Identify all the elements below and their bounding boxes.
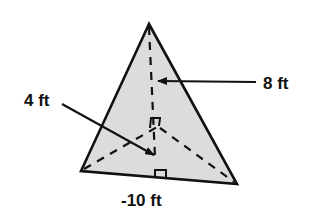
pyramid-face <box>81 24 237 184</box>
slant-height-arrow <box>158 81 256 82</box>
apothem-label: 4 ft <box>24 91 50 110</box>
slant-height-label: 8 ft <box>263 74 289 93</box>
pyramid-diagram: 8 ft 4 ft -10 ft <box>0 0 313 221</box>
base-edge-label: -10 ft <box>121 191 162 210</box>
